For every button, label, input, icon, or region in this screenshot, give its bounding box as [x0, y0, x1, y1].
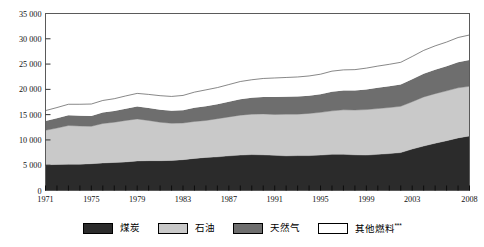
x-tick-label: 1999	[358, 195, 374, 204]
y-tick-label: 30 000	[19, 35, 42, 44]
x-tick-label: 1987	[221, 195, 237, 204]
energy-supply-stacked-area-chart: 05 00010 00015 00020 00025 00030 00035 0…	[0, 0, 484, 210]
y-tick-label: 10 000	[19, 136, 42, 145]
x-tick-label: 2008	[461, 195, 477, 204]
x-tick-label: 1991	[267, 195, 283, 204]
legend-swatch	[83, 223, 113, 234]
legend-swatch	[233, 223, 263, 234]
legend-swatch	[318, 223, 348, 234]
plot-area-wrapper: 05 00010 00015 00020 00025 00030 00035 0…	[0, 0, 484, 210]
legend-footnote-marker: ***	[395, 222, 402, 229]
legend-item[interactable]: 煤炭	[83, 223, 140, 234]
y-tick-label: 20 000	[19, 85, 42, 94]
x-tick-label: 1979	[129, 195, 145, 204]
legend-swatch	[158, 223, 188, 234]
stacked-area-chart-figure: 05 00010 00015 00020 00025 00030 00035 0…	[0, 0, 484, 247]
legend-item[interactable]: 天然气	[233, 223, 300, 234]
x-tick-label: 1975	[83, 195, 99, 204]
y-tick-label: 15 000	[19, 111, 42, 120]
y-tick-label: 5 000	[23, 161, 41, 170]
chart-legend: 煤炭石油天然气其他燃料***	[0, 213, 484, 243]
y-tick-label: 25 000	[19, 60, 42, 69]
y-tick-label: 35 000	[19, 10, 42, 19]
legend-item[interactable]: 其他燃料***	[318, 223, 402, 234]
x-tick-label: 2003	[404, 195, 420, 204]
legend-label: 石油	[195, 223, 215, 233]
legend-item[interactable]: 石油	[158, 223, 215, 234]
legend-label: 其他燃料***	[355, 223, 402, 234]
x-tick-label: 1971	[37, 195, 53, 204]
legend-label: 天然气	[270, 223, 300, 233]
x-tick-label: 1995	[312, 195, 328, 204]
x-tick-label: 1983	[175, 195, 191, 204]
legend-label: 煤炭	[120, 223, 140, 233]
